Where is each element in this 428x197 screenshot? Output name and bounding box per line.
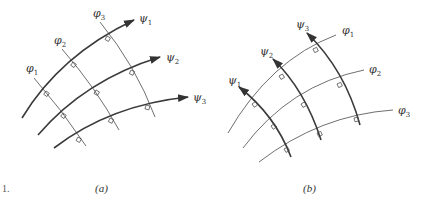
psi-3-label-b: ψ3 <box>296 18 309 33</box>
psi-1-line <box>22 20 134 118</box>
psi-2-label-b: ψ2 <box>260 45 273 60</box>
right-angle-markers <box>44 36 150 142</box>
phi-1-label: φ1 <box>26 62 38 77</box>
phi-2-label-b: φ2 <box>369 63 381 78</box>
flow-net-figure: φ1 φ2 φ3 ψ1 ψ2 ψ3 (a) 1. φ1 <box>0 0 428 197</box>
right-angle-markers-b <box>252 47 359 152</box>
phi-3-label: φ3 <box>93 7 105 22</box>
psi-1-label: ψ1 <box>139 12 152 27</box>
psi-3-line <box>54 97 188 148</box>
psi-2-curve <box>273 59 321 140</box>
figure-number-fragment: 1. <box>2 183 10 194</box>
caption-b: (b) <box>303 182 316 195</box>
phi-3-label-b: φ3 <box>398 104 410 119</box>
phi-2-curve <box>243 70 364 148</box>
psi-2-label: ψ2 <box>166 51 179 66</box>
caption-a: (a) <box>95 182 108 195</box>
phi-3-curve <box>259 110 393 162</box>
phi-1-label-b: φ1 <box>342 24 354 39</box>
psi-2-line <box>38 57 160 135</box>
psi-1-label-b: ψ1 <box>228 74 241 89</box>
psi-3-label: ψ3 <box>193 91 206 106</box>
phi-2-label: φ2 <box>54 34 66 49</box>
psi-1-curve <box>239 87 291 157</box>
panel-b: φ1 φ2 φ3 ψ1 ψ2 ψ3 (b) <box>228 18 410 195</box>
panel-a: φ1 φ2 φ3 ψ1 ψ2 ψ3 (a) <box>22 7 206 195</box>
